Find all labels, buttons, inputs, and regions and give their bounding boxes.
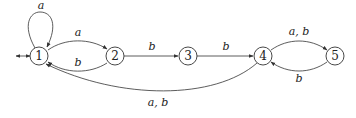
svg-text:2: 2 — [111, 49, 119, 63]
edge-1-2 — [48, 41, 107, 50]
edge-label-2-3: b — [148, 40, 155, 53]
svg-text:1: 1 — [35, 49, 43, 63]
svg-text:5: 5 — [331, 49, 339, 63]
svg-text:3: 3 — [184, 49, 192, 63]
automaton-diagram: a a b b b a, b b a, b 1 2 3 — [0, 0, 356, 118]
svg-text:4: 4 — [259, 49, 267, 63]
edge-5-4 — [271, 62, 327, 71]
state-4: 4 — [254, 47, 272, 65]
edge-label-1-2: a — [75, 26, 82, 39]
state-5: 5 — [326, 47, 344, 65]
edge-label-4-1: a, b — [148, 96, 169, 109]
edge-label-4-5: a, b — [289, 25, 310, 38]
edge-label-2-1: b — [74, 56, 81, 69]
edge-label-1-1: a — [38, 0, 45, 12]
edge-1-1 — [28, 12, 53, 48]
state-1: 1 — [30, 47, 48, 65]
edge-4-5 — [271, 41, 327, 50]
edge-label-3-4: b — [222, 40, 229, 53]
state-2: 2 — [106, 47, 124, 65]
edge-label-5-4: b — [295, 72, 302, 85]
state-3: 3 — [179, 47, 197, 65]
